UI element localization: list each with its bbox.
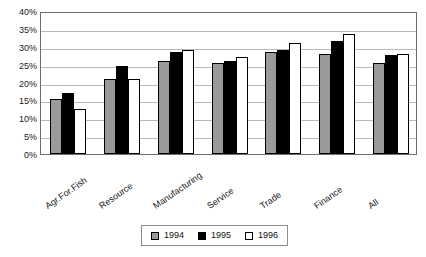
y-axis: 40%35%30%25%20%15%10%5%0% <box>0 0 37 257</box>
legend-entry-1996: 1996 <box>245 231 278 240</box>
legend-label: 1994 <box>164 231 184 240</box>
bar-1996-trade <box>289 43 301 154</box>
x-axis-tick-label: Service <box>205 186 235 211</box>
chart-legend: 199419951996 <box>141 225 288 246</box>
x-axis-tick-label: Agr.For.Fish <box>43 175 88 211</box>
x-axis: Agr.For.FishResourceManufacturingService… <box>0 157 426 215</box>
legend-label: 1996 <box>258 231 278 240</box>
legend-swatch-icon <box>151 232 159 240</box>
bar-1996-resource <box>128 79 140 154</box>
x-axis-tick-label: Resource <box>97 181 134 211</box>
x-axis-tick-label: Trade <box>259 190 284 211</box>
bar-1996-service <box>236 57 248 154</box>
bar-1996-manufacturing <box>182 50 194 154</box>
legend-swatch-icon <box>198 232 206 240</box>
legend-swatch-icon <box>245 232 253 240</box>
legend-entry-1995: 1995 <box>198 231 231 240</box>
bar-group <box>50 13 86 154</box>
bar-1996-all <box>397 54 409 154</box>
bar-1996-finance <box>343 34 355 154</box>
bar-1994-all <box>373 63 385 154</box>
y-axis-tick-label: 10% <box>3 115 37 124</box>
bar-1995-trade <box>277 50 289 154</box>
bar-group <box>104 13 140 154</box>
x-axis-tick-label: Manufacturing <box>151 170 203 211</box>
y-axis-tick-label: 35% <box>3 25 37 34</box>
bar-1996-agr-for-fish <box>74 109 86 154</box>
bar-1994-resource <box>104 79 116 154</box>
bar-1994-finance <box>319 54 331 154</box>
bar-group <box>158 13 194 154</box>
bar-1994-agr-for-fish <box>50 99 62 154</box>
y-axis-tick-label: 5% <box>3 133 37 142</box>
bar-chart: 40%35%30%25%20%15%10%5%0% Agr.For.FishRe… <box>0 0 426 257</box>
bars-layer <box>41 13 416 154</box>
y-axis-tick-label: 15% <box>3 97 37 106</box>
bar-group <box>265 13 301 154</box>
y-axis-tick-label: 30% <box>3 43 37 52</box>
x-axis-tick-label: Finance <box>312 184 344 211</box>
x-axis-tick-label: All <box>366 197 380 211</box>
bar-1994-manufacturing <box>158 61 170 154</box>
bar-group <box>212 13 248 154</box>
bar-1995-finance <box>331 41 343 154</box>
y-axis-tick-label: 20% <box>3 79 37 88</box>
bar-1994-trade <box>265 52 277 154</box>
bar-1995-service <box>224 61 236 154</box>
y-axis-tick-label: 40% <box>3 8 37 17</box>
bar-1995-resource <box>116 66 128 154</box>
bar-group <box>373 13 409 154</box>
bar-1995-agr-for-fish <box>62 93 74 154</box>
y-axis-tick-label: 25% <box>3 61 37 70</box>
bar-1994-service <box>212 63 224 154</box>
legend-entry-1994: 1994 <box>151 231 184 240</box>
bar-group <box>319 13 355 154</box>
bar-1995-all <box>385 55 397 154</box>
legend-label: 1995 <box>211 231 231 240</box>
bar-1995-manufacturing <box>170 52 182 154</box>
plot-area <box>40 12 417 155</box>
